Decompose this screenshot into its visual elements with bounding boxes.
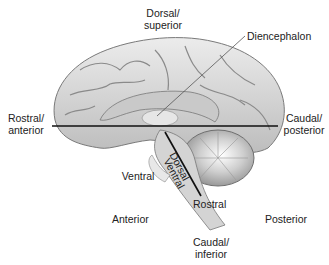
label-diencephalon: Diencephalon [247, 30, 311, 42]
label-dorsal-superior: Dorsal/ superior [133, 7, 193, 31]
label-posterior: Posterior [265, 213, 307, 225]
label-ventral: Ventral [116, 170, 160, 182]
label-line: inferior [189, 248, 233, 260]
label-line: anterior [3, 124, 49, 136]
label-rostral: Rostral [193, 198, 226, 210]
label-line: Rostral/ [3, 112, 49, 124]
label-line: Caudal/ [280, 112, 328, 124]
label-line: Dorsal/ [133, 7, 193, 19]
label-anterior: Anterior [112, 213, 149, 225]
brain-diagram: Dorsal/ superior Diencephalon Rostral/ a… [0, 0, 329, 265]
label-rostral-anterior: Rostral/ anterior [3, 112, 49, 136]
label-caudal-posterior: Caudal/ posterior [280, 112, 328, 136]
label-line: superior [133, 19, 193, 31]
label-caudal-inferior: Caudal/ inferior [189, 236, 233, 260]
label-line: posterior [280, 124, 328, 136]
label-line: Caudal/ [189, 236, 233, 248]
